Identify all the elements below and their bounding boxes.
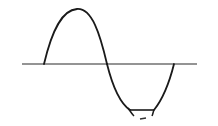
waveform-diagram (0, 0, 218, 126)
lower-right-tail (152, 110, 154, 116)
negative-half-cycle-descending (107, 64, 130, 110)
bottom-marker-tick (140, 118, 146, 119)
positive-half-cycle (44, 9, 107, 64)
waveform-svg (0, 0, 218, 126)
negative-half-cycle-ascending (154, 64, 174, 110)
